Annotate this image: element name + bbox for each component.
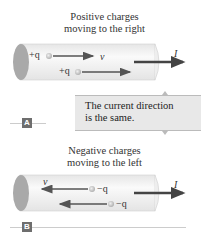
panel-b-charge1 [89,186,95,192]
panel-a-label: A [22,118,32,128]
callout-box: The current direction is the same. [75,95,201,131]
wire-cross-section [13,44,29,80]
wire-cross-section [13,175,29,211]
panel-a-charge1 [46,53,52,59]
panel-b-current-symbol: I [173,179,178,190]
callout-line2: is the same. [85,112,201,124]
panel-b-caption: Negative charges moving to the left [0,145,201,169]
panel-b-caption-line1: Negative charges [4,145,201,157]
panel-a-current-symbol: I [173,48,178,59]
panel-a-charge2 [75,69,81,75]
callout-line1: The current direction [85,100,201,112]
panel-b-charge1-label: −q [97,183,108,194]
panel-b-velocity-symbol: v⃗ [43,176,55,187]
panel-a-charge1-label: +q [29,49,40,60]
panel-a-velocity-symbol: v⃗ [100,51,112,62]
panel-b-charge2-label: −q [116,198,127,209]
panel-b-rule [10,227,186,228]
panel-b-caption-line2: moving to the left [4,157,201,169]
panel-b-charge2 [108,201,114,207]
callout-bottom-notch [162,131,168,135]
panel-a-charge2-label: +q [59,65,70,76]
panel-b-label: B [22,222,32,232]
